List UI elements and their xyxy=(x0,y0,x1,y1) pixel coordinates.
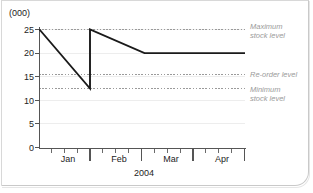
chart-card: (000) 25 20 15 10 5 0 Jan Feb Mar Apr 20… xyxy=(0,0,313,193)
gridlines xyxy=(39,30,245,124)
y-axis-ticks xyxy=(35,30,40,148)
stock-level-line-chart xyxy=(0,0,313,193)
reference-lines xyxy=(39,30,246,89)
data-line-stock-level xyxy=(40,30,246,89)
axes xyxy=(40,27,247,149)
